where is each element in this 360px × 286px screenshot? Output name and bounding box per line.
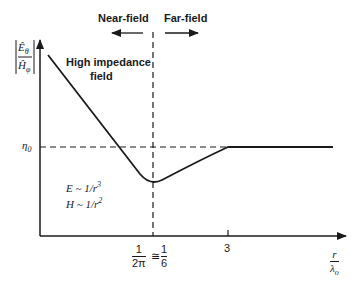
- h-field-relation: H ~ 1/r2: [66, 196, 102, 210]
- high-impedance-label-line2: field: [90, 70, 113, 82]
- near-field-label: Near-field: [98, 12, 149, 24]
- y-axis-label-denominator: Ĥφ: [18, 58, 30, 77]
- high-impedance-label-line1: High impedance: [66, 56, 151, 68]
- far-field-label: Far-field: [164, 12, 207, 24]
- tick-label-3: 3: [224, 242, 230, 254]
- e-field-relation: E ~ 1/r3: [66, 180, 101, 194]
- eta0-label: η0: [22, 139, 31, 154]
- diagram-canvas: [0, 0, 360, 286]
- y-axis-label-numerator: Êθ: [18, 40, 29, 59]
- approx-symbol: ≅: [151, 250, 160, 263]
- tick-label-1-over-2pi: 1 2π: [132, 243, 146, 270]
- x-axis-label: r λo: [330, 248, 339, 279]
- tick-label-1-over-6: 1 6: [161, 243, 167, 270]
